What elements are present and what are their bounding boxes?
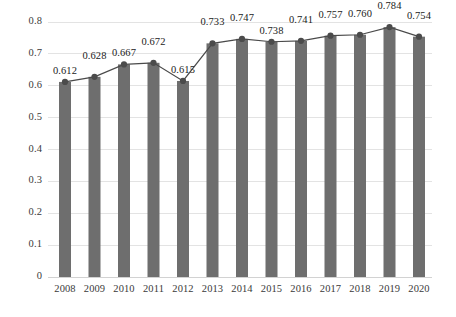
data-point-marker	[209, 40, 215, 46]
chart-container: 0.80.70.60.50.40.30.20.10 20082009201020…	[0, 0, 456, 317]
data-point-marker	[357, 32, 363, 38]
data-label: 0.754	[402, 10, 436, 21]
bar	[118, 64, 130, 277]
y-axis-tick-label: 0.7	[0, 47, 42, 58]
data-label: 0.738	[255, 25, 289, 36]
y-axis-tick-label: 0.8	[0, 15, 42, 26]
data-label: 0.747	[225, 12, 259, 23]
data-point-marker	[62, 79, 68, 85]
data-label: 0.615	[166, 64, 200, 75]
data-point-marker	[298, 38, 304, 44]
bar	[236, 39, 248, 277]
y-axis-tick-label: 0.4	[0, 143, 42, 154]
bar	[266, 42, 278, 277]
bar	[148, 63, 160, 277]
data-point-marker	[327, 33, 333, 39]
bar	[59, 82, 71, 277]
data-point-marker	[386, 24, 392, 30]
bar-series	[59, 27, 425, 277]
data-point-marker	[239, 36, 245, 42]
data-label: 0.667	[107, 47, 141, 58]
data-label: 0.612	[48, 65, 82, 76]
bar	[207, 43, 219, 277]
bar	[354, 35, 366, 277]
bar	[177, 81, 189, 277]
y-axis-tick-label: 0.5	[0, 111, 42, 122]
data-label: 0.672	[137, 36, 171, 47]
bar	[413, 37, 425, 277]
bar	[384, 27, 396, 277]
data-point-marker	[416, 34, 422, 40]
y-axis-tick-label: 0	[0, 270, 42, 281]
bar	[295, 41, 307, 277]
bar	[325, 36, 337, 277]
chart-plot-area	[0, 0, 456, 317]
data-point-marker	[91, 74, 97, 80]
x-axis-tick-label: 2020	[399, 283, 439, 294]
bar	[89, 77, 101, 277]
y-axis-tick-label: 0.1	[0, 238, 42, 249]
y-axis-tick-label: 0.2	[0, 206, 42, 217]
data-point-marker	[150, 60, 156, 66]
data-point-marker	[180, 78, 186, 84]
data-point-marker	[121, 61, 127, 67]
data-point-marker	[268, 39, 274, 45]
y-axis-tick-label: 0.6	[0, 79, 42, 90]
y-axis-tick-label: 0.3	[0, 174, 42, 185]
